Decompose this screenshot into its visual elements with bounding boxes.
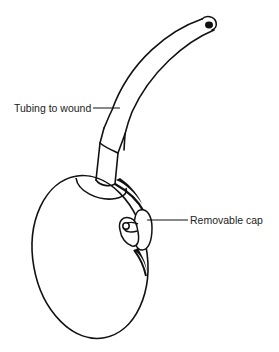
bulb bbox=[20, 166, 161, 347]
tubing bbox=[96, 17, 216, 186]
removable-cap-label: Removable cap bbox=[190, 214, 263, 226]
removable-cap bbox=[119, 210, 152, 250]
tubing-label: Tubing to wound bbox=[14, 102, 91, 114]
drainage-bulb-diagram bbox=[0, 0, 279, 352]
